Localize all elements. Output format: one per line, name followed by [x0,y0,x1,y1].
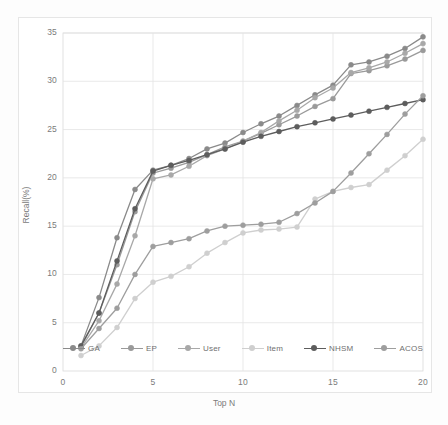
data-point [295,124,300,129]
data-point [115,235,120,240]
x-tick-label: 20 [408,377,438,387]
y-tick-label: 10 [31,268,57,278]
data-point [187,264,192,269]
legend-item-acos[interactable]: ACOS [374,344,422,353]
data-point [403,51,408,56]
data-point [97,326,102,331]
data-point [169,163,174,168]
data-point [295,103,300,108]
data-point [133,206,138,211]
legend-label: EP [145,344,157,353]
data-point [259,121,264,126]
data-point [223,146,228,151]
data-point [115,325,120,330]
data-point [223,224,228,229]
legend-marker-icon [249,345,255,351]
data-point [205,228,210,233]
data-point [277,227,282,232]
data-point [133,187,138,192]
y-tick-label: 5 [31,317,57,327]
data-point [331,189,336,194]
data-point [313,95,318,100]
legend-label: User [202,344,221,353]
legend-item-ga[interactable]: GA [63,344,100,353]
data-point [187,158,192,163]
data-point [421,137,426,142]
data-point [403,57,408,62]
data-point [151,176,156,181]
data-point [115,306,120,311]
data-point [421,93,426,98]
data-point [421,48,426,53]
data-point [385,132,390,137]
data-point [277,220,282,225]
data-point [385,105,390,110]
data-point [151,169,156,174]
recall-vs-topn-chart: Recall(%) Top N 05101520253035 05101520 … [0,0,448,425]
legend-label: GA [87,344,100,353]
data-point [331,116,336,121]
data-point [331,96,336,101]
data-point [97,318,102,323]
data-point [349,113,354,118]
legend-label: NHSM [328,344,353,353]
legend-line-icon [121,348,143,349]
data-point [169,240,174,245]
data-point [349,171,354,176]
data-point [385,54,390,59]
data-point [115,282,120,287]
data-point [205,146,210,151]
y-tick-label: 15 [31,220,57,230]
data-point [97,295,102,300]
legend-marker-icon [381,345,387,351]
x-tick-label: 15 [318,377,348,387]
legend-line-icon [178,348,200,349]
data-point [223,240,228,245]
y-axis-label: Recall(%) [21,165,31,245]
data-point [367,151,372,156]
y-tick-label: 20 [31,172,57,182]
data-point [313,104,318,109]
data-point [295,114,300,119]
data-point [295,108,300,113]
data-point [403,153,408,158]
legend-label: ACOS [398,344,422,353]
data-point [259,228,264,233]
data-point [349,62,354,67]
data-point [259,134,264,139]
x-tick-label: 5 [138,377,168,387]
data-point [367,59,372,64]
data-point [133,233,138,238]
legend-line-icon [242,348,264,349]
legend-line-icon [304,348,326,349]
data-point [205,152,210,157]
data-point [403,112,408,117]
x-axis-label: Top N [0,398,448,408]
data-point [187,164,192,169]
data-point [331,86,336,91]
data-point [403,101,408,106]
data-point [169,274,174,279]
data-point [295,225,300,230]
data-point [277,114,282,119]
data-point [169,172,174,177]
y-tick-label: 0 [31,365,57,375]
data-point [205,251,210,256]
legend-item-user[interactable]: User [178,344,221,353]
legend-item-ep[interactable]: EP [121,344,157,353]
chart-legend: GAEPUserItemNHSMACOS [63,340,423,356]
data-point [313,200,318,205]
data-point [115,258,120,263]
data-point [349,185,354,190]
data-point [313,120,318,125]
data-point [367,182,372,187]
legend-line-icon [63,348,85,349]
data-point [151,244,156,249]
data-point [367,65,372,70]
legend-label: Item [266,344,283,353]
plot-area [0,0,448,425]
legend-item-nhsm[interactable]: NHSM [304,344,353,353]
data-point [241,130,246,135]
x-tick-label: 0 [48,377,78,387]
legend-item-item[interactable]: Item [242,344,283,353]
